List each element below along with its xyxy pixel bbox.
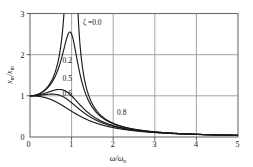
y-tick-label-3: 3 xyxy=(21,10,25,19)
y-tick-label-2: 2 xyxy=(21,51,25,60)
y-axis-title-den-sub: m xyxy=(9,66,15,70)
curve-annotation-zeta-0.0: ζ =0.0 xyxy=(83,18,102,27)
curve-annotation-zeta-0.6: 0.6 xyxy=(63,89,73,98)
x-tick-label-2: 2 xyxy=(111,140,115,149)
x-tick-label-5: 5 xyxy=(236,140,240,149)
curve-annotation-zeta-0.2: 0.2 xyxy=(63,56,73,65)
y-tick-label-0: 0 xyxy=(21,133,25,142)
figure-container: 0 1 2 3 4 5 0 1 2 3 ω/ωn xm/xm ζ =0.0 0.… xyxy=(0,0,253,167)
x-tick-label-1: 1 xyxy=(69,140,73,149)
x-tick-label-0: 0 xyxy=(27,140,31,149)
x-tick-label-4: 4 xyxy=(194,140,198,149)
curve-annotation-zeta-0.8: 0.8 xyxy=(117,108,127,117)
magnification-factor-chart: 0 1 2 3 4 5 0 1 2 3 ω/ωn xm/xm ζ =0.0 0.… xyxy=(0,0,253,167)
x-axis-title-main: ω/ω xyxy=(110,154,124,163)
x-axis-title-sub: n xyxy=(123,158,126,164)
curve-annotation-zeta-0.5: 0.5 xyxy=(63,74,73,83)
chart-background xyxy=(0,0,253,167)
y-tick-label-1: 1 xyxy=(21,92,25,101)
x-tick-label-3: 3 xyxy=(152,140,156,149)
